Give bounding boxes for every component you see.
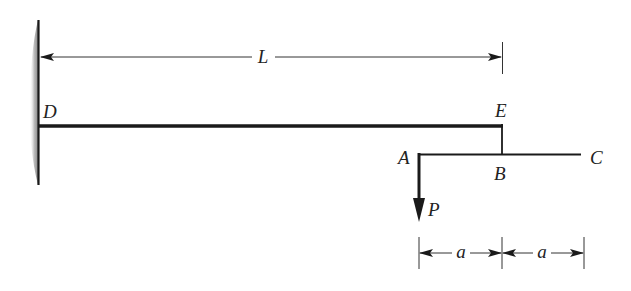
wall-hatching-shade — [29, 20, 38, 185]
dimension-a: a a — [419, 237, 584, 269]
label-B: B — [494, 163, 506, 184]
label-D: D — [42, 101, 57, 122]
load-P: P — [413, 153, 440, 222]
dimension-L: L — [41, 42, 503, 74]
label-E: E — [494, 100, 507, 121]
fixed-support — [29, 20, 38, 185]
label-C: C — [590, 147, 603, 168]
label-P: P — [427, 199, 440, 220]
beam-diagram: L D E A B C P a a — [0, 0, 631, 291]
label-L: L — [257, 46, 269, 67]
label-A: A — [396, 147, 410, 168]
label-a2: a — [537, 241, 547, 262]
load-P-arrowhead — [413, 198, 425, 222]
label-a1: a — [456, 241, 466, 262]
